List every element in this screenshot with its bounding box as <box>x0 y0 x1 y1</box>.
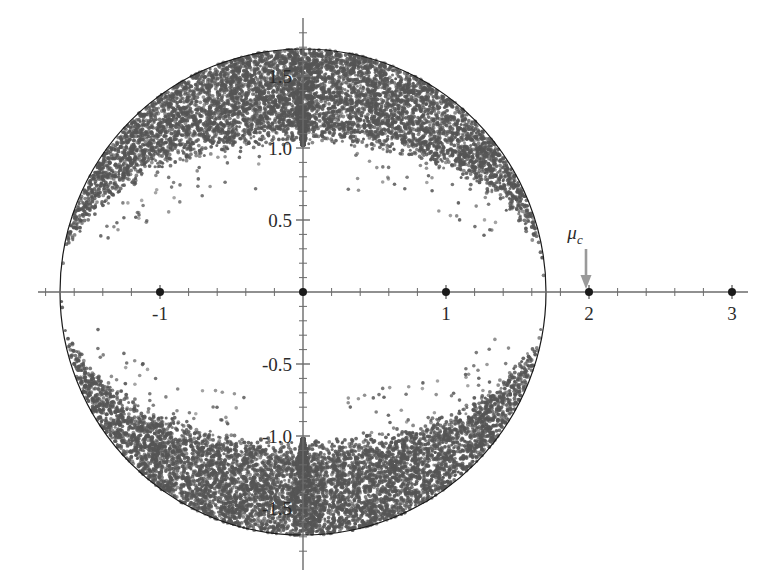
bulk-eigenvalue-point <box>466 384 470 388</box>
bulk-eigenvalue-point <box>329 481 333 485</box>
bulk-eigenvalue-point <box>472 460 475 463</box>
bulk-eigenvalue-point <box>143 123 147 127</box>
bulk-eigenvalue-point <box>360 523 364 527</box>
bulk-eigenvalue-point <box>461 408 464 411</box>
bulk-eigenvalue-point <box>313 463 317 467</box>
x-tick-label-3: 3 <box>727 303 737 324</box>
bulk-eigenvalue-point <box>243 453 246 456</box>
bulk-eigenvalue-point <box>339 68 342 71</box>
bulk-eigenvalue-point <box>400 432 404 436</box>
bulk-eigenvalue-point <box>180 117 184 121</box>
bulk-eigenvalue-point <box>479 411 482 414</box>
bulk-eigenvalue-point <box>347 83 351 87</box>
bulk-eigenvalue-point <box>332 90 336 94</box>
bulk-eigenvalue-point <box>201 389 205 393</box>
bulk-eigenvalue-point <box>133 359 137 363</box>
bulk-eigenvalue-point <box>307 142 310 145</box>
bulk-eigenvalue-point <box>369 109 373 113</box>
bulk-eigenvalue-point <box>355 63 359 67</box>
bulk-eigenvalue-point <box>213 118 217 122</box>
bulk-eigenvalue-point <box>290 124 294 128</box>
bulk-eigenvalue-point <box>415 84 419 88</box>
bulk-eigenvalue-point <box>334 84 338 88</box>
bulk-eigenvalue-point <box>114 410 118 414</box>
bulk-eigenvalue-point <box>431 123 435 127</box>
bulk-eigenvalue-point <box>455 441 459 445</box>
bulk-eigenvalue-point <box>236 70 240 74</box>
bulk-eigenvalue-point <box>156 170 160 174</box>
bulk-eigenvalue-point <box>485 178 489 182</box>
bulk-eigenvalue-point <box>206 92 210 96</box>
spike-eigenvalue-point <box>308 472 312 476</box>
bulk-eigenvalue-point <box>178 183 182 187</box>
bulk-eigenvalue-point <box>204 440 208 444</box>
bulk-eigenvalue-point <box>437 209 441 213</box>
bulk-eigenvalue-point <box>472 396 476 400</box>
bulk-eigenvalue-point <box>376 97 380 101</box>
bulk-eigenvalue-point <box>403 107 406 110</box>
bulk-eigenvalue-point <box>406 450 410 454</box>
bulk-eigenvalue-point <box>245 111 249 115</box>
bulk-eigenvalue-point <box>344 53 348 57</box>
bulk-eigenvalue-point <box>180 138 183 141</box>
bulk-eigenvalue-point <box>139 428 143 432</box>
bulk-eigenvalue-point <box>229 449 233 453</box>
bulk-eigenvalue-point <box>346 114 349 117</box>
bulk-eigenvalue-point <box>253 448 256 451</box>
bulk-eigenvalue-point <box>315 91 318 94</box>
bulk-eigenvalue-point <box>397 467 401 471</box>
bulk-eigenvalue-point <box>412 88 416 92</box>
bulk-eigenvalue-point <box>192 471 196 475</box>
bulk-eigenvalue-point <box>453 445 457 449</box>
bulk-eigenvalue-point <box>176 151 180 155</box>
bulk-eigenvalue-point <box>384 456 387 459</box>
bulk-eigenvalue-point <box>174 126 178 130</box>
bulk-eigenvalue-point <box>214 79 218 83</box>
bulk-eigenvalue-point <box>373 115 377 119</box>
bulk-eigenvalue-point <box>234 107 238 111</box>
bulk-eigenvalue-point <box>100 399 103 402</box>
bulk-eigenvalue-point <box>440 114 444 118</box>
bulk-eigenvalue-point <box>340 83 343 86</box>
bulk-eigenvalue-point <box>88 208 92 212</box>
bulk-eigenvalue-point <box>442 146 446 150</box>
bulk-eigenvalue-point <box>397 70 401 74</box>
bulk-eigenvalue-point <box>335 65 339 69</box>
bulk-eigenvalue-point <box>165 427 169 431</box>
bulk-eigenvalue-point <box>73 216 77 220</box>
bulk-eigenvalue-point <box>459 471 463 475</box>
bulk-eigenvalue-point <box>501 420 505 424</box>
y-tick-label-neg05: -0.5 <box>262 354 292 375</box>
outlier-eigenvalue-point <box>299 288 307 296</box>
bulk-eigenvalue-point <box>348 116 352 120</box>
bulk-eigenvalue-point <box>159 416 162 419</box>
bulk-eigenvalue-point <box>111 405 115 409</box>
bulk-eigenvalue-point <box>210 460 214 464</box>
bulk-eigenvalue-point <box>456 126 460 130</box>
bulk-eigenvalue-point <box>339 60 343 64</box>
spike-eigenvalue-point <box>293 480 297 484</box>
bulk-eigenvalue-point <box>77 204 80 207</box>
bulk-eigenvalue-point <box>344 517 348 521</box>
bulk-eigenvalue-point <box>419 123 423 127</box>
bulk-eigenvalue-point <box>413 454 417 458</box>
bulk-eigenvalue-point <box>401 113 405 117</box>
bulk-eigenvalue-point <box>97 376 101 380</box>
bulk-eigenvalue-point <box>248 132 252 136</box>
bulk-eigenvalue-point <box>497 178 501 182</box>
bulk-eigenvalue-point <box>226 161 230 165</box>
bulk-eigenvalue-point <box>367 96 371 100</box>
bulk-eigenvalue-point <box>236 115 240 119</box>
bulk-eigenvalue-point <box>266 456 269 459</box>
bulk-eigenvalue-point <box>401 473 405 477</box>
bulk-eigenvalue-point <box>339 474 343 478</box>
bulk-eigenvalue-point <box>344 513 347 516</box>
bulk-eigenvalue-point <box>235 128 238 131</box>
bulk-eigenvalue-point <box>171 461 175 465</box>
bulk-eigenvalue-point <box>325 500 329 504</box>
bulk-eigenvalue-point <box>183 457 187 461</box>
bulk-eigenvalue-point <box>350 91 353 94</box>
bulk-eigenvalue-point <box>101 384 105 388</box>
bulk-eigenvalue-point <box>354 456 358 460</box>
bulk-eigenvalue-point <box>383 132 387 136</box>
